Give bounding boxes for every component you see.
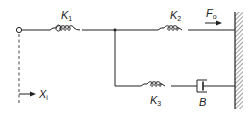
xi-arrow-icon (19, 92, 36, 97)
k2-label: K2 (170, 9, 181, 22)
mechanical-diagram: Xi K1 K2 Fo K3 B (0, 0, 252, 113)
input-terminal (16, 27, 21, 32)
xi-label: Xi (38, 88, 48, 101)
spring-k1 (50, 25, 80, 31)
k1-label: K1 (61, 9, 72, 22)
f0-label: Fo (206, 7, 217, 20)
k3-label: K3 (150, 94, 161, 107)
fixed-wall (235, 12, 243, 109)
f0-arrow-icon (205, 21, 222, 26)
spring-k2 (158, 26, 182, 31)
spring-k3 (141, 82, 165, 87)
b-label: B (199, 96, 206, 108)
damper-b (197, 80, 235, 92)
